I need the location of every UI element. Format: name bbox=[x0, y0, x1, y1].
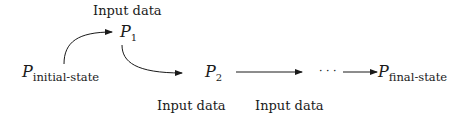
edge-label-bottom-right: Input data bbox=[255, 99, 324, 112]
arrow-p1-to-p2 bbox=[122, 45, 182, 73]
arrow-initial-to-p1 bbox=[64, 32, 112, 64]
node-p1: P1 bbox=[120, 24, 137, 40]
node-final-state: Pfinal-state bbox=[378, 64, 447, 80]
arrows-layer bbox=[0, 0, 464, 122]
edge-label-bottom-left: Input data bbox=[157, 99, 226, 112]
edge-label-top: Input data bbox=[93, 4, 162, 17]
node-p2: P2 bbox=[205, 64, 222, 80]
diagram-canvas: Input data P1 Pinitial-state P2 · · · Pf… bbox=[0, 0, 464, 122]
node-initial-state: Pinitial-state bbox=[22, 64, 99, 80]
ellipsis: · · · bbox=[319, 66, 336, 77]
